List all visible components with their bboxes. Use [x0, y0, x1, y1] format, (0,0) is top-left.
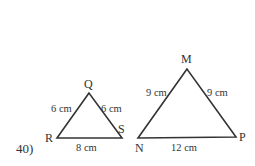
vertex-label-s: S — [118, 122, 125, 136]
vertex-label-p: P — [239, 130, 246, 144]
vertex-label-m: M — [181, 52, 192, 66]
vertex-label-n: N — [135, 141, 144, 155]
side-label-qr: 6 cm — [51, 103, 72, 114]
triangle-mnp-shape — [138, 69, 236, 138]
side-label-mn: 9 cm — [146, 87, 167, 98]
vertex-label-r: R — [45, 131, 53, 145]
triangle-qrs: Q R S 6 cm 6 cm 8 cm — [45, 77, 125, 153]
triangle-mnp: M N P 9 cm 9 cm 12 cm — [135, 52, 246, 155]
figure-canvas: Q R S 6 cm 6 cm 8 cm M N P 9 cm 9 cm 12 … — [0, 0, 255, 166]
problem-number: 40) — [16, 141, 33, 156]
diagram-svg: Q R S 6 cm 6 cm 8 cm M N P 9 cm 9 cm 12 … — [0, 0, 255, 166]
triangle-qrs-shape — [57, 93, 122, 138]
side-label-rs: 8 cm — [76, 142, 97, 153]
vertex-label-q: Q — [84, 77, 93, 91]
side-label-np: 12 cm — [171, 142, 197, 153]
side-label-mp: 9 cm — [207, 87, 228, 98]
side-label-qs: 6 cm — [101, 103, 122, 114]
